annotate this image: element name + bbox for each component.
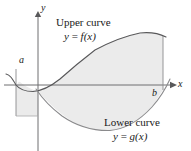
lower-equation-lhs: y — [113, 130, 118, 142]
tick-label-a: a — [19, 55, 24, 65]
upper-curve-equation: y = f(x) — [64, 31, 96, 42]
lower-equation-rhs: g(x) — [130, 130, 148, 142]
area-between-curves-figure: Upper curve y = f(x) Lower curve y = g(x… — [0, 0, 191, 151]
lower-curve-equation: y = g(x) — [113, 131, 147, 142]
upper-equation-equals: = — [72, 30, 78, 42]
lower-curve-caption: Lower curve — [104, 117, 160, 128]
shaded-region-left-strip — [16, 82, 38, 116]
upper-equation-rhs: f(x) — [81, 30, 96, 42]
upper-curve-caption: Upper curve — [56, 17, 111, 28]
tick-label-b: b — [152, 88, 157, 98]
x-axis-label: x — [178, 79, 182, 89]
upper-equation-lhs: y — [64, 30, 69, 42]
lower-equation-equals: = — [121, 130, 127, 142]
y-axis-label: y — [41, 3, 45, 13]
x-axis-arrowhead — [170, 82, 177, 88]
